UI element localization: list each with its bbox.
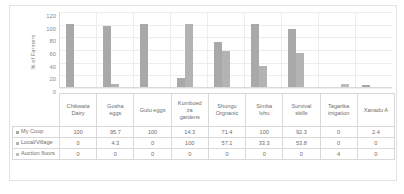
table-cell: 92.3 <box>283 127 320 138</box>
category-label-cell: Kumboedzagardens <box>171 94 208 127</box>
category-label-line: Survival <box>283 103 319 110</box>
category-label-line: skills <box>283 110 319 117</box>
table-cell: 0 <box>283 149 320 160</box>
y-axis-tick-label: 60 <box>50 51 56 57</box>
category-label-line: Orgnanic <box>209 110 245 117</box>
table-cell: 0 <box>60 138 97 149</box>
bar <box>251 24 259 87</box>
table-header-row: ChikwataDairyGoshaeggsGutu eggsKumboedza… <box>13 94 395 127</box>
table-cell: 0 <box>60 149 97 160</box>
bar-group <box>356 12 392 87</box>
table-cell: 0 <box>134 138 171 149</box>
bar-group-bars <box>245 12 281 87</box>
y-axis-title-text: % of Farmers <box>30 35 36 70</box>
table-cell: 0 <box>320 127 357 138</box>
table-row: My Coop10095.710014.371.410092.302.4 <box>13 127 395 138</box>
table-cell: 95.7 <box>97 127 134 138</box>
bar-group <box>245 12 282 87</box>
y-axis-ticks: 120100806040200 <box>40 12 57 92</box>
data-table-region: ChikwataDairyGoshaeggsGutu eggsKumboedza… <box>12 93 394 160</box>
legend-label-text: Auction floors <box>21 151 55 157</box>
bar <box>288 29 296 87</box>
bar-group-bars <box>208 12 244 87</box>
category-label-cell: Gutu eggs <box>134 94 171 127</box>
category-label-line: Shungu <box>209 103 245 110</box>
data-table: ChikwataDairyGoshaeggsGutu eggsKumboedza… <box>12 93 395 160</box>
category-label-cell: Tagarikairrigation <box>320 94 357 127</box>
category-label-cell: SimbaIvhu <box>246 94 283 127</box>
bar-group <box>134 12 171 87</box>
bar-group-bars <box>282 12 318 87</box>
chart-container: % of Farmers 120100806040200 ChikwataDai… <box>0 0 404 194</box>
bar-group <box>319 12 356 87</box>
bar <box>66 24 74 87</box>
table-cell: 0 <box>171 149 208 160</box>
table-row: Local/Village04.3010057.133.353.800 <box>13 138 395 149</box>
bar <box>177 78 185 87</box>
table-row: Auction floors000000040 <box>13 149 395 160</box>
legend-swatch-icon <box>16 142 19 145</box>
table-cell: 100 <box>134 127 171 138</box>
legend-label-text: My Coop <box>21 129 43 135</box>
gridline <box>60 88 392 89</box>
table-cell: 0 <box>208 149 245 160</box>
category-label-cell: ShunguOrgnanic <box>208 94 245 127</box>
category-label-line: za <box>172 107 208 114</box>
y-axis-tick-label: 120 <box>46 13 56 19</box>
category-label-line: Xanadu A <box>358 107 394 114</box>
category-label-cell: Goshaeggs <box>97 94 134 127</box>
table-cell: 100 <box>60 127 97 138</box>
category-label-cell: Xanadu A <box>357 94 394 127</box>
category-label-line: Simba <box>246 103 282 110</box>
table-cell: 57.1 <box>208 138 245 149</box>
category-label-cell: Survivalskills <box>283 94 320 127</box>
category-label-line: Gutu eggs <box>134 107 170 114</box>
table-cell: 71.4 <box>208 127 245 138</box>
table-cell: 100 <box>246 127 283 138</box>
bar-group <box>171 12 208 87</box>
bar-group <box>208 12 245 87</box>
table-cell: 0 <box>357 149 394 160</box>
legend-row-label: Local/Village <box>13 138 60 149</box>
category-label-line: gardens <box>172 114 208 121</box>
bar-group <box>97 12 134 87</box>
table-cell: 0 <box>97 149 134 160</box>
table-cell: 0 <box>246 149 283 160</box>
category-label-line: Dairy <box>60 110 96 117</box>
bar-group-bars <box>319 12 355 87</box>
bar-group-bars <box>356 12 392 87</box>
bar-columns <box>60 12 392 87</box>
bar-group-bars <box>171 12 207 87</box>
bar <box>296 53 304 87</box>
bar <box>362 85 370 87</box>
y-axis-tick-label: 80 <box>50 38 56 44</box>
table-cell: 4.3 <box>97 138 134 149</box>
category-label-line: Chikwata <box>60 103 96 110</box>
bar-group-bars <box>97 12 133 87</box>
legend-label-text: Local/Village <box>21 140 53 146</box>
y-axis-tick-label: 40 <box>50 64 56 70</box>
table-cell: 33.3 <box>246 138 283 149</box>
plot-area <box>59 12 392 88</box>
legend-row-label: Auction floors <box>13 149 60 160</box>
category-label-line: Tagarika <box>321 103 357 110</box>
bar <box>341 84 349 87</box>
table-cell: 2.4 <box>357 127 394 138</box>
bar <box>185 24 193 87</box>
category-label-line: irrigation <box>321 110 357 117</box>
table-cell: 100 <box>171 138 208 149</box>
bar <box>140 24 148 87</box>
table-cell: 0 <box>320 138 357 149</box>
bar-group <box>282 12 319 87</box>
legend-swatch-icon <box>16 131 19 134</box>
bar <box>111 84 119 87</box>
y-axis-tick-label: 100 <box>46 26 56 32</box>
bar <box>103 26 111 87</box>
bar <box>222 51 230 87</box>
category-label-line: Gosha <box>97 103 133 110</box>
table-cell: 53.8 <box>283 138 320 149</box>
table-cell: 0 <box>134 149 171 160</box>
y-axis-tick-label: 20 <box>50 76 56 82</box>
bar <box>214 42 222 87</box>
table-cell: 14.3 <box>171 127 208 138</box>
